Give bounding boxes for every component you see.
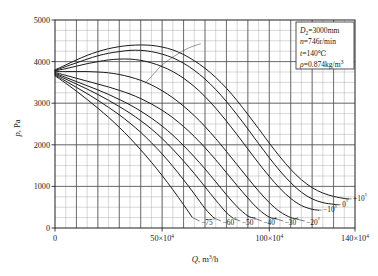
param-d2: D2=3000mm [299,26,340,36]
y-tick-label: 2000 [34,141,50,150]
x-tick-label: 50×104 [150,233,174,243]
y-axis-unit: , Pa [12,119,22,132]
x-axis-unit-base: , m [198,254,209,264]
x-tick-label: 100×104 [255,233,283,243]
x-axis-unit-tail: /h [212,254,219,264]
y-tick-label: 4000 [34,58,50,67]
param-rho: ρ=0.874kg/m3 [299,59,344,69]
y-axis-title: p, Pa [12,119,22,137]
y-tick-label: 0 [46,224,50,233]
x-tick-label: 0 [53,234,57,243]
svg-text:Q, m3/h: Q, m3/h [192,254,219,264]
parameter-box: D2=3000mmn=746r/mint=140℃ρ=0.874kg/m3 [296,22,354,69]
param-t: t=140℃ [300,49,327,58]
y-tick-label: 1000 [34,182,50,191]
chart-canvas: 010002000300040005000 050×104100×104140×… [0,0,378,276]
x-tick-label: 140×104 [341,233,369,243]
svg-text:p, Pa: p, Pa [12,119,22,137]
y-tick-label: 5000 [34,16,50,25]
fan-performance-chart: 010002000300040005000 050×104100×104140×… [0,0,378,276]
y-tick-label: 3000 [34,99,50,108]
x-axis-title: Q, m3/h [192,254,219,264]
param-n: n=746r/min [300,37,336,46]
